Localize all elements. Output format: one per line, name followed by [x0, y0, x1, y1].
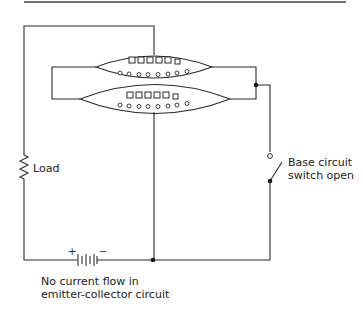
bottom-wire [97, 183, 270, 260]
circuit-diagram: + − Load Base circuit switch open No cur… [0, 0, 363, 310]
switch-label-line1: Base circuit [288, 156, 353, 169]
load-label: Load [33, 162, 59, 175]
battery-plus-label: + [68, 246, 76, 257]
emitter-left-loop [52, 67, 96, 99]
transistor-layer-upper [96, 56, 212, 78]
battery-minus-label: − [99, 246, 107, 257]
battery-icon [78, 254, 97, 266]
emitter-right-loop [212, 67, 256, 99]
caption-line2: emitter-collector circuit [41, 288, 170, 301]
base-wire [256, 85, 270, 152]
junction-dot-bottom [151, 258, 156, 263]
caption-line1: No current flow in [41, 275, 139, 288]
transistor-layer-lower [80, 85, 230, 114]
switch-label-line2: switch open [288, 169, 354, 182]
base-switch-open-icon [268, 154, 282, 184]
junction-dot-base [254, 83, 259, 88]
